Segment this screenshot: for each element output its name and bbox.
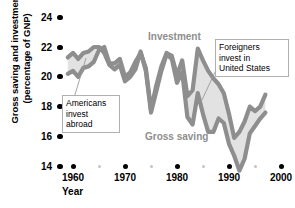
annotation-line-1: Foreigners xyxy=(219,42,285,53)
annotation-line-2: invest in xyxy=(219,53,285,64)
x-tick-label-1960: 1960 xyxy=(53,172,93,183)
annotation-foreigners-invest-in-united-states: Foreigners invest in United States xyxy=(215,39,289,77)
x-tick-dot-1990 xyxy=(227,164,233,170)
y-tick-label-22: 22 xyxy=(32,42,52,53)
x-tick-dot-1960 xyxy=(71,164,77,170)
series-label-investment: Investment xyxy=(148,31,201,42)
x-tick-dot-1965 xyxy=(98,165,101,168)
y-tick-label-20: 20 xyxy=(32,71,52,82)
x-tick-label-2000: 2000 xyxy=(261,172,295,183)
x-tick-dot-2000 xyxy=(279,164,285,170)
annotation-line-3: abroad xyxy=(66,119,116,130)
y-tick-label-24: 24 xyxy=(32,12,52,23)
y-tick-dot-14 xyxy=(57,164,63,170)
chart-figure: Gross saving and investment (percentage … xyxy=(0,0,295,208)
annotation-pointer-foreigners xyxy=(201,70,216,102)
annotation-line-1: Americans xyxy=(66,98,116,109)
x-tick-dot-1975 xyxy=(150,165,153,168)
x-tick-dot-1985 xyxy=(202,165,205,168)
annotation-pointer-americans xyxy=(74,58,86,98)
annotation-line-2: invest xyxy=(66,109,116,120)
x-tick-dot-1970 xyxy=(123,164,129,170)
y-tick-label-18: 18 xyxy=(32,101,52,112)
x-tick-label-1990: 1990 xyxy=(209,172,249,183)
y-tick-dot-20 xyxy=(57,74,63,80)
x-tick-label-1970: 1970 xyxy=(105,172,145,183)
y-tick-label-16: 16 xyxy=(32,131,52,142)
y-tick-label-14: 14 xyxy=(32,161,52,172)
y-tick-dot-22 xyxy=(57,45,63,51)
x-axis-label: Year xyxy=(62,186,83,197)
x-tick-dot-1980 xyxy=(175,164,181,170)
x-tick-dot-1995 xyxy=(254,165,257,168)
series-label-gross-saving: Gross saving xyxy=(145,131,208,142)
y-tick-dot-16 xyxy=(57,134,63,140)
y-tick-dot-24 xyxy=(57,15,63,21)
annotation-line-3: United States xyxy=(219,63,285,74)
y-axis-label: Gross saving and investment (percentage … xyxy=(9,0,32,131)
annotation-americans-invest-abroad: Americans invest abroad xyxy=(62,95,120,133)
x-tick-label-1980: 1980 xyxy=(157,172,197,183)
